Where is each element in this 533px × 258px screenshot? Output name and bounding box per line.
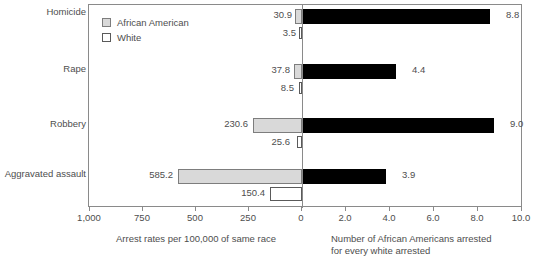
value-label-ratio-aggravated-assault: 3.9 bbox=[402, 169, 415, 180]
value-label-ratio-homicide: 8.8 bbox=[506, 9, 519, 20]
legend-item-white: White bbox=[102, 31, 189, 44]
tick-label-left-250: 250 bbox=[240, 212, 256, 223]
legend-item-african-american: African American bbox=[102, 16, 189, 29]
tick-mark-left-500 bbox=[195, 207, 196, 211]
tick-mark-right-2 bbox=[345, 207, 346, 211]
value-label-white-robbery: 25.6 bbox=[232, 136, 290, 147]
tick-mark-left-750 bbox=[142, 207, 143, 211]
tick-mark-center-0 bbox=[301, 207, 302, 211]
category-label-aggravated-assault: Aggravated assault bbox=[0, 168, 86, 179]
legend-swatch-white-icon bbox=[102, 33, 111, 42]
tick-label-left-500: 500 bbox=[187, 212, 203, 223]
legend: African American White bbox=[102, 16, 189, 46]
tick-mark-right-4 bbox=[389, 207, 390, 211]
value-label-ratio-rape: 4.4 bbox=[412, 64, 425, 75]
category-label-rape: Rape bbox=[0, 63, 86, 74]
axis-caption-right: Number of African Americans arrested for… bbox=[331, 233, 492, 256]
tick-mark-right-8 bbox=[477, 207, 478, 211]
bar-left-white-rape bbox=[299, 82, 302, 94]
category-label-robbery: Robbery bbox=[0, 118, 86, 129]
bar-right-ratio-robbery bbox=[303, 118, 494, 133]
tick-label-left-1000: 1,000 bbox=[77, 212, 101, 223]
bar-left-african-american-homicide bbox=[295, 9, 302, 24]
bar-left-african-american-aggravated-assault bbox=[178, 169, 302, 184]
axis-caption-left: Arrest rates per 100,000 of same race bbox=[116, 233, 276, 245]
value-label-african-american-aggravated-assault: 585.2 bbox=[117, 169, 173, 180]
tick-mark-left-250 bbox=[248, 207, 249, 211]
tick-label-right-2: 2.0 bbox=[338, 212, 351, 223]
value-label-ratio-robbery: 9.0 bbox=[510, 118, 523, 129]
axis-caption-right-line2: for every white arrested bbox=[331, 245, 492, 257]
category-label-homicide: Homicide bbox=[0, 6, 86, 17]
bar-right-ratio-homicide bbox=[303, 9, 490, 24]
legend-label-african-american: African American bbox=[117, 17, 189, 28]
tick-mark-left-1000 bbox=[89, 207, 90, 211]
value-label-african-american-rape: 37.8 bbox=[234, 64, 290, 75]
tick-label-right-6: 6.0 bbox=[426, 212, 439, 223]
value-label-african-american-homicide: 30.9 bbox=[236, 9, 292, 20]
bar-left-white-homicide bbox=[299, 27, 302, 39]
bar-left-white-aggravated-assault bbox=[270, 187, 302, 201]
legend-swatch-african-american-icon bbox=[102, 18, 111, 27]
tick-label-center-0: 0 bbox=[298, 212, 303, 223]
legend-label-white: White bbox=[117, 32, 141, 43]
value-label-african-american-robbery: 230.6 bbox=[192, 118, 248, 129]
bar-left-white-robbery bbox=[297, 136, 302, 148]
bar-left-african-american-rape bbox=[294, 64, 302, 79]
value-label-white-aggravated-assault: 150.4 bbox=[209, 187, 265, 198]
dual-panel-bar-chart: Homicide Rape Robbery Aggravated assault… bbox=[0, 0, 533, 258]
bar-right-ratio-rape bbox=[303, 64, 396, 79]
tick-mark-right-10 bbox=[521, 207, 522, 211]
bar-right-ratio-aggravated-assault bbox=[303, 169, 386, 184]
bar-left-african-american-robbery bbox=[253, 118, 302, 133]
tick-label-right-10: 10.0 bbox=[512, 212, 531, 223]
tick-label-right-4: 4.0 bbox=[382, 212, 395, 223]
tick-mark-right-6 bbox=[433, 207, 434, 211]
value-label-white-rape: 8.5 bbox=[234, 82, 294, 93]
tick-label-left-750: 750 bbox=[134, 212, 150, 223]
tick-label-right-8: 8.0 bbox=[470, 212, 483, 223]
value-label-white-homicide: 3.5 bbox=[236, 27, 296, 38]
axis-caption-right-line1: Number of African Americans arrested bbox=[331, 233, 492, 245]
